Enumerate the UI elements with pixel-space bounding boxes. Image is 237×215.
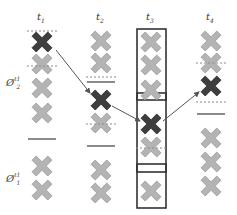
cross-icon: [91, 183, 111, 203]
cross-icon: [32, 78, 52, 98]
cross-icon: [32, 156, 52, 176]
row-label-subscript: 1: [16, 179, 20, 186]
diagram-svg: [0, 0, 237, 215]
cross-icon: [91, 31, 111, 51]
cross-icon: [91, 113, 111, 133]
cross-icon: [141, 32, 161, 52]
row-label-phi-2: Øt12: [6, 78, 24, 88]
diagram-canvas: t1t2t3t4 Øt12Øt11: [0, 0, 237, 215]
column-label-subscript: 2: [100, 17, 104, 24]
cross-icon: [141, 55, 161, 75]
row-label-phi-1: Øt11: [6, 174, 24, 184]
column-t3-partition-box: [137, 164, 166, 172]
cross-icon: [141, 137, 161, 157]
arrow-icon: [112, 106, 140, 121]
row-label-symbol: Ø: [6, 77, 14, 88]
column-label-subscript: 4: [210, 17, 214, 24]
arrow-icon: [163, 92, 199, 121]
dashed-lines: [27, 31, 226, 148]
column-label-t1: t1: [37, 12, 45, 24]
column-label-t4: t4: [206, 12, 214, 24]
cross-icon: [32, 103, 52, 123]
row-label-symbol: Ø: [6, 173, 14, 184]
cross-icon: [91, 53, 111, 73]
cross-icon: [201, 128, 221, 148]
cross-icon: [201, 176, 221, 196]
cross-icon: [141, 80, 161, 100]
cross-items: [32, 31, 221, 203]
cross-icon: [201, 31, 221, 51]
column-label-subscript: 1: [41, 17, 45, 24]
highlighted-cross-icon: [32, 32, 52, 52]
row-label-subscript: 2: [16, 83, 20, 90]
column-label-t3: t3: [146, 12, 154, 24]
transition-arrows: [56, 50, 199, 121]
highlighted-cross-icon: [141, 114, 161, 134]
cross-icon: [91, 160, 111, 180]
column-label-subscript: 3: [150, 17, 154, 24]
row-label-superscript: t1: [14, 171, 20, 178]
cross-icon: [141, 181, 161, 201]
column-label-t2: t2: [96, 12, 104, 24]
cross-icon: [201, 152, 221, 172]
arrow-icon: [56, 50, 90, 93]
row-label-superscript: t1: [14, 75, 20, 82]
cross-icon: [32, 180, 52, 200]
highlighted-cross-icon: [91, 90, 111, 110]
highlighted-cross-icon: [201, 76, 221, 96]
cross-icon: [32, 54, 52, 74]
